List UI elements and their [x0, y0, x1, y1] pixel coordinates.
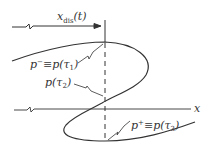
trajectory-diagram: xdis(t) x p−≡p(τ1) p(τ2) p+≡p(τ3) — [0, 0, 209, 153]
distance-label: xdis(t) — [57, 10, 87, 25]
x-axis-label: x — [194, 102, 201, 115]
distance-arrow — [12, 20, 105, 42]
x-axis — [14, 107, 191, 112]
leader-lines — [74, 44, 130, 140]
label-p-plus: p+≡p(τ3) — [131, 119, 179, 133]
label-p-minus: p−≡p(τ1) — [30, 58, 78, 72]
label-p-tau2: p(τ2) — [45, 76, 71, 90]
